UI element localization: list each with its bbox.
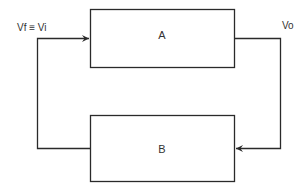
block-a-label: A	[158, 29, 165, 41]
input-signal-label: Vf ≡ Vi	[17, 22, 47, 33]
output-line	[235, 39, 281, 149]
feedback-line	[38, 39, 91, 149]
output-signal-label: Vo	[282, 20, 294, 31]
block-b-label: B	[158, 143, 165, 155]
